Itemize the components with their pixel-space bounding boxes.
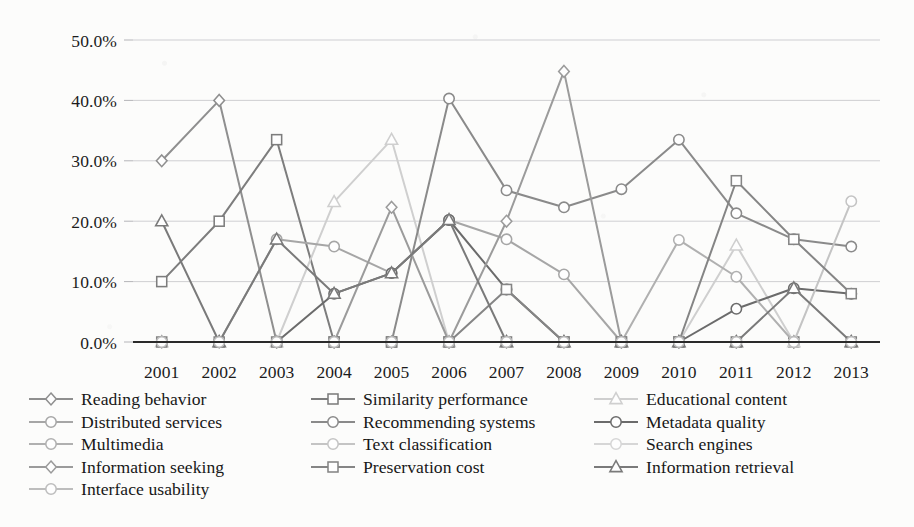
legend-label: Educational content: [646, 389, 787, 409]
data-point-marker: [444, 93, 454, 103]
legend-swatch-diamond: [28, 389, 74, 409]
data-point-marker: [611, 417, 621, 427]
legend-swatch-diamond: [28, 457, 74, 477]
data-point-marker: [46, 439, 56, 449]
x-tick-label: 2011: [719, 362, 754, 382]
data-point-marker: [559, 269, 569, 279]
legend-swatch-circle: [310, 434, 356, 454]
legend-marker-circle-icon: [28, 412, 74, 432]
series-preservation-cost: [157, 176, 857, 347]
y-tick-label: 20.0%: [71, 212, 117, 232]
legend-label: Multimedia: [81, 434, 164, 454]
data-point-marker: [46, 393, 57, 405]
data-point-marker: [328, 462, 338, 472]
x-tick-label: 2005: [374, 362, 410, 382]
legend-label: Preservation cost: [363, 457, 485, 477]
gridlines: [133, 40, 880, 282]
data-point-marker: [846, 241, 856, 251]
data-point-marker: [730, 239, 742, 250]
data-point-marker: [501, 234, 511, 244]
data-point-marker: [386, 201, 397, 213]
data-point-marker: [329, 241, 339, 251]
y-tick-label: 30.0%: [71, 151, 117, 171]
legend-swatch-triangle: [593, 457, 639, 477]
x-tick-label: 2013: [834, 362, 870, 382]
legend-item[interactable]: Reading behavior: [28, 388, 224, 411]
x-tick-label: 2003: [259, 362, 295, 382]
legend-label: Reading behavior: [81, 389, 206, 409]
series-line: [162, 71, 852, 342]
data-point-marker: [731, 272, 741, 282]
legend-label: Recommending systems: [363, 412, 536, 432]
data-point-marker: [156, 215, 168, 226]
legend-item[interactable]: Information seeking: [28, 456, 224, 479]
legend-item[interactable]: Multimedia: [28, 433, 224, 456]
legend-marker-diamond-icon: [28, 457, 74, 477]
legend-column-3: Educational contentMetadata qualitySearc…: [593, 388, 794, 478]
data-point-marker: [385, 133, 397, 144]
legend-item[interactable]: Metadata quality: [593, 411, 794, 434]
data-point-marker: [328, 394, 338, 404]
data-point-marker: [674, 235, 684, 245]
legend-item[interactable]: Preservation cost: [310, 456, 536, 479]
legend-swatch-circle: [593, 434, 639, 454]
legend-swatch-circle: [28, 412, 74, 432]
y-axis-labels: 0.0%10.0%20.0%30.0%40.0%50.0%: [71, 31, 117, 353]
legend-marker-square-icon: [310, 389, 356, 409]
data-point-marker: [846, 196, 856, 206]
data-point-marker: [328, 439, 338, 449]
series-information-seeking: [156, 66, 856, 348]
legend-item[interactable]: Information retrieval: [593, 456, 794, 479]
x-tick-label: 2001: [144, 362, 179, 382]
legend-marker-diamond-icon: [28, 389, 74, 409]
x-tick-label: 2002: [201, 362, 236, 382]
legend-swatch-circle: [28, 479, 74, 499]
legend-item[interactable]: Similarity performance: [310, 388, 536, 411]
x-tick-label: 2010: [661, 362, 697, 382]
data-point-marker: [789, 234, 799, 244]
legend-item[interactable]: Educational content: [593, 388, 794, 411]
legend-column-1: Reading behaviorDistributed servicesMult…: [28, 388, 224, 501]
data-point-marker: [731, 208, 741, 218]
legend-marker-triangle-icon: [593, 457, 639, 477]
legend-swatch-circle: [593, 412, 639, 432]
data-point-marker: [272, 135, 282, 145]
legend-swatch-square: [310, 389, 356, 409]
y-tick-label: 50.0%: [71, 31, 117, 51]
legend-marker-circle-icon: [28, 479, 74, 499]
data-point-marker: [501, 185, 511, 195]
data-point-marker: [731, 304, 741, 314]
legend-label: Information seeking: [81, 457, 224, 477]
data-point-marker: [674, 134, 684, 144]
legend-swatch-triangle: [593, 389, 639, 409]
legend-marker-circle-icon: [310, 412, 356, 432]
data-point-marker: [157, 277, 167, 287]
data-point-marker: [559, 202, 569, 212]
legend-label: Metadata quality: [646, 412, 766, 432]
chart-legend: Reading behaviorDistributed servicesMult…: [0, 388, 914, 523]
data-point-marker: [328, 417, 338, 427]
legend-marker-circle-icon: [593, 434, 639, 454]
legend-item[interactable]: Distributed services: [28, 411, 224, 434]
data-point-marker: [46, 461, 57, 473]
y-tick-label: 40.0%: [71, 91, 117, 111]
data-point-marker: [731, 176, 741, 186]
legend-item[interactable]: Search engines: [593, 433, 794, 456]
x-tick-label: 2009: [604, 362, 640, 382]
legend-item[interactable]: Interface usability: [28, 478, 224, 501]
x-tick-label: 2004: [316, 362, 352, 382]
legend-item[interactable]: Recommending systems: [310, 411, 536, 434]
legend-column-2: Similarity performanceRecommending syste…: [310, 388, 536, 478]
data-point-marker: [502, 284, 512, 294]
data-point-marker: [611, 439, 621, 449]
data-point-marker: [501, 215, 512, 227]
x-tick-label: 2006: [431, 362, 467, 382]
legend-marker-circle-icon: [593, 412, 639, 432]
legend-item[interactable]: Text classification: [310, 433, 536, 456]
legend-label: Similarity performance: [363, 389, 528, 409]
x-axis-labels: 2001200220032004200520062007200820092010…: [144, 362, 869, 382]
x-tick-label: 2008: [546, 362, 582, 382]
legend-swatch-square: [310, 457, 356, 477]
data-point-marker: [46, 484, 56, 494]
data-point-marker: [846, 289, 856, 299]
